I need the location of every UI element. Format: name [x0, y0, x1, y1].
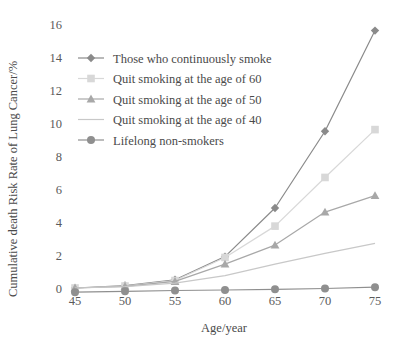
x-tick-label: 70: [319, 294, 332, 308]
data-point-marker: [371, 283, 379, 291]
legend-label: Quit smoking at the age of 60: [113, 72, 262, 86]
chart-canvas: 0246810121416 45505560657075 Cumulative …: [0, 0, 406, 350]
x-tick-label: 60: [219, 294, 232, 308]
data-point-marker: [87, 136, 95, 144]
data-point-marker: [221, 286, 229, 294]
data-point-marker: [87, 54, 95, 62]
data-point-marker: [87, 75, 95, 83]
legend-label: Those who continuously smoke: [113, 52, 272, 66]
legend-item-3[interactable]: Quit smoking at the age of 40: [78, 113, 262, 127]
series-line: [75, 196, 375, 288]
lung-cancer-risk-chart: 0246810121416 45505560657075 Cumulative …: [0, 0, 406, 350]
y-tick-label: 16: [50, 18, 63, 32]
legend-item-2[interactable]: Quit smoking at the age of 50: [78, 93, 262, 107]
x-tick-label: 65: [269, 294, 282, 308]
y-tick-label: 6: [56, 183, 62, 197]
data-point-marker: [321, 127, 329, 135]
data-point-marker: [121, 287, 129, 295]
legend-item-1[interactable]: Quit smoking at the age of 60: [78, 72, 262, 86]
chart-legend: Those who continuously smokeQuit smoking…: [78, 52, 272, 148]
data-point-marker: [321, 174, 329, 182]
legend-item-0[interactable]: Those who continuously smoke: [78, 52, 272, 66]
y-tick-label: 2: [56, 249, 62, 263]
legend-label: Quit smoking at the age of 50: [113, 93, 262, 107]
y-tick-label: 4: [56, 216, 63, 230]
y-tick-label: 14: [50, 51, 63, 65]
y-tick-label: 10: [50, 117, 63, 131]
data-point-marker: [371, 126, 379, 134]
data-point-marker: [171, 286, 179, 294]
y-tick-label: 8: [56, 150, 62, 164]
y-tick-label: 12: [50, 84, 63, 98]
x-tick-label: 50: [119, 294, 132, 308]
data-point-marker: [271, 222, 279, 230]
y-axis-tick-labels: 0246810121416: [50, 18, 63, 296]
x-axis-title: Age/year: [201, 321, 248, 335]
y-tick-label: 0: [56, 282, 62, 296]
data-point-marker: [71, 288, 79, 296]
x-axis-tick-labels: 45505560657075: [69, 294, 382, 308]
x-tick-label: 55: [169, 294, 182, 308]
series-2: [71, 191, 380, 291]
y-axis-title: Cumulative death Risk Rate of Lung Cance…: [6, 61, 20, 297]
data-point-marker: [321, 284, 329, 292]
x-tick-label: 75: [369, 294, 382, 308]
data-point-marker: [271, 241, 280, 249]
series-line: [75, 31, 375, 288]
legend-label: Quit smoking at the age of 40: [113, 113, 262, 127]
legend-item-4[interactable]: Lifelong non-smokers: [78, 134, 224, 148]
data-series-layer: [71, 26, 380, 296]
data-point-marker: [271, 285, 279, 293]
data-point-marker: [371, 191, 380, 199]
legend-label: Lifelong non-smokers: [113, 134, 224, 148]
data-point-marker: [371, 26, 379, 34]
